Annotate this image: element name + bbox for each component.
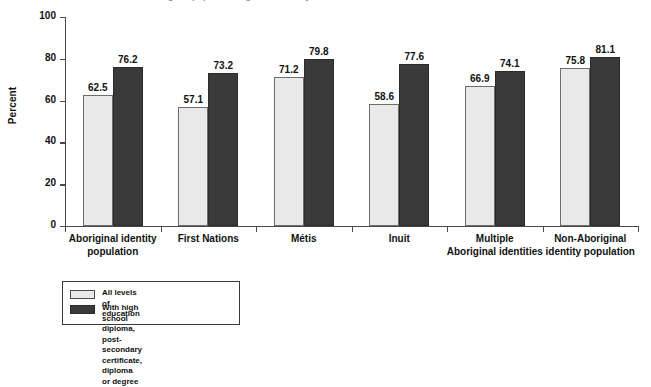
bar: [590, 57, 620, 226]
bar: [178, 107, 208, 226]
bar-group: 75.881.1: [543, 17, 639, 226]
cut-off-title-text: Percentage of population aged 25 to 64 b…: [130, 0, 411, 1]
bar-group: 66.974.1: [447, 17, 543, 226]
bar-value-label: 73.2: [202, 60, 244, 71]
legend-swatch-dark-icon: [70, 305, 95, 314]
bar-value-label: 76.2: [107, 54, 149, 65]
plot-area: 62.576.257.173.271.279.858.677.666.974.1…: [65, 17, 638, 226]
bar: [304, 59, 334, 226]
bar: [399, 64, 429, 226]
bar: [495, 71, 525, 226]
category-label: Non-Aboriginal identity population: [531, 232, 651, 258]
bar: [113, 67, 143, 226]
bar: [369, 104, 399, 226]
bar: [208, 73, 238, 226]
bar-value-label: 74.1: [489, 58, 531, 69]
bar-group: 71.279.8: [256, 17, 352, 226]
legend: All levels of education With high school…: [62, 281, 240, 325]
legend-swatch-light-icon: [70, 290, 95, 299]
bar-group: 62.576.2: [65, 17, 161, 226]
bar-group: 57.173.2: [161, 17, 257, 226]
bar-group: 58.677.6: [352, 17, 448, 226]
bar: [465, 86, 495, 226]
y-axis-label: Percent: [7, 76, 18, 136]
bar: [274, 77, 304, 226]
legend-label: With high school diploma, post-secondary…: [102, 303, 142, 387]
bar: [83, 95, 113, 226]
cut-off-title: Percentage of population aged 25 to 64 b…: [0, 0, 651, 6]
bar-value-label: 81.1: [584, 44, 626, 55]
bar-value-label: 77.6: [393, 51, 435, 62]
bar: [560, 68, 590, 226]
bar-value-label: 79.8: [298, 46, 340, 57]
